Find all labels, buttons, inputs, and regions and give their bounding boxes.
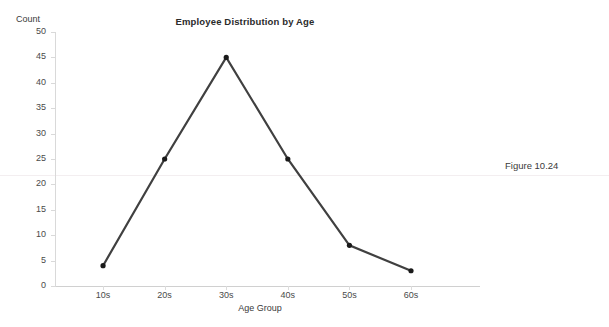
data-point-10s (100, 263, 105, 268)
series-markers (100, 55, 413, 274)
series-layer (0, 0, 609, 327)
data-point-50s (347, 243, 352, 248)
series-line-count (103, 57, 411, 270)
line-chart: Employee Distribution by Age Count Age G… (0, 0, 609, 327)
data-point-20s (162, 156, 167, 161)
data-point-60s (408, 268, 413, 273)
data-point-30s (224, 55, 229, 60)
data-point-40s (285, 156, 290, 161)
